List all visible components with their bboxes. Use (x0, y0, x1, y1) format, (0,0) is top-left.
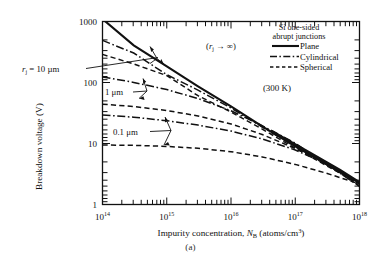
label-rj-0p1um: 0.1 μm (113, 127, 138, 137)
legend-title-line1: Si one-sided (279, 23, 320, 32)
legend-label-spherical: Spherical (300, 62, 333, 72)
legend-label-cylindrical: Cylindrical (300, 52, 339, 62)
label-rj-1um: 1 μm (105, 87, 123, 97)
y-tick-100: 100 (84, 78, 98, 88)
breakdown-voltage-chart: Si one-sided abrupt junctions Plane Cyli… (0, 0, 381, 271)
legend-label-plane: Plane (300, 41, 319, 51)
y-tick-10: 10 (88, 139, 98, 149)
y-tick-1: 1 (93, 200, 98, 210)
figure-container: Si one-sided abrupt junctions Plane Cyli… (0, 0, 381, 271)
label-rj-10um: rj = 10 µm (22, 64, 60, 75)
annotation-plane-limit: (rj → ∞) (206, 41, 236, 52)
y-axis-title: Breakdown voltage (V) (34, 103, 44, 190)
y-tick-1000: 1000 (79, 17, 98, 27)
legend-title-line2: abrupt junctions (273, 32, 326, 41)
x-axis-title: Impurity concentration, NB (atoms/cm3) (158, 227, 305, 239)
figure-caption: (a) (0, 242, 381, 252)
annotation-temperature: (300 K) (263, 83, 291, 93)
